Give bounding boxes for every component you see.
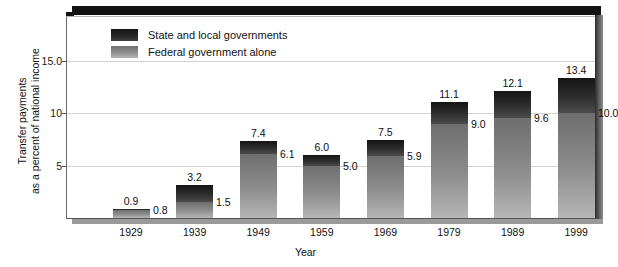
bar-segment-federal-1989 <box>494 118 531 218</box>
bar-federal-label-1939: 1.5 <box>216 196 231 208</box>
bar-federal-label-1999: 10.0 <box>598 107 618 119</box>
bar-total-label-1979: 11.1 <box>419 88 479 100</box>
bar-federal-label-1989: 9.6 <box>534 112 549 124</box>
bar-total-label-1969: 7.5 <box>355 126 415 138</box>
bar-segment-state-local-1949 <box>240 141 277 155</box>
bar-segment-federal-1959 <box>303 166 340 218</box>
x-axis-line <box>66 218 596 219</box>
bar-segment-state-local-1959 <box>303 155 340 165</box>
y-tick-mark-15 <box>62 61 67 62</box>
bar-1999 <box>558 78 595 218</box>
bar-federal-label-1969: 5.9 <box>407 150 422 162</box>
y-axis-title-line1: Transfer payments <box>16 19 29 224</box>
x-tick-label-1969: 1969 <box>355 226 415 238</box>
legend-label-federal: Federal government alone <box>148 45 276 60</box>
bar-segment-federal-1999 <box>558 113 595 218</box>
gridline-15 <box>67 61 595 62</box>
bar-segment-state-local-1999 <box>558 78 595 114</box>
legend-swatch-icon-federal <box>111 46 138 58</box>
x-tick-label-1929: 1929 <box>101 226 161 238</box>
bar-total-label-1989: 12.1 <box>483 77 543 89</box>
bar-segment-state-local-1979 <box>431 102 468 124</box>
bar-total-label-1949: 7.4 <box>228 127 288 139</box>
bar-1959 <box>303 155 340 218</box>
bar-federal-label-1979: 9.0 <box>471 118 486 130</box>
y-tick-mark-10 <box>62 113 67 114</box>
legend-label-state-local: State and local governments <box>148 28 287 43</box>
bar-segment-state-local-1969 <box>367 140 404 157</box>
bar-segment-federal-1929 <box>113 210 150 218</box>
x-tick-label-1959: 1959 <box>292 226 352 238</box>
plot-bottom-shadow <box>72 219 603 224</box>
y-tick-mark-5 <box>62 166 67 167</box>
legend-swatch-icon-state-local <box>111 29 138 41</box>
x-tick-label-1989: 1989 <box>483 226 543 238</box>
bar-segment-federal-1939 <box>176 202 213 218</box>
bar-total-label-1959: 6.0 <box>292 141 352 153</box>
bar-1929 <box>113 209 150 218</box>
chart-top-band <box>72 6 601 15</box>
bar-segment-federal-1969 <box>367 156 404 218</box>
x-tick-label-1939: 1939 <box>165 226 225 238</box>
bar-segment-federal-1979 <box>431 124 468 218</box>
x-tick-label-1979: 1979 <box>419 226 479 238</box>
bar-total-label-1999: 13.4 <box>546 64 606 76</box>
y-axis-title-line2: as a percent of national income <box>29 19 42 224</box>
x-axis-title: Year <box>0 246 611 258</box>
bar-segment-federal-1949 <box>240 154 277 218</box>
bar-1989 <box>494 91 531 218</box>
bar-segment-state-local-1939 <box>176 185 213 203</box>
bar-1949 <box>240 141 277 218</box>
bar-federal-label-1959: 5.0 <box>343 160 358 172</box>
bar-total-label-1929: 0.9 <box>101 195 161 207</box>
bar-1969 <box>367 140 404 219</box>
bar-total-label-1939: 3.2 <box>165 171 225 183</box>
bar-federal-label-1929: 0.8 <box>153 204 168 216</box>
bar-1939 <box>176 185 213 218</box>
x-tick-label-1999: 1999 <box>546 226 606 238</box>
bar-1979 <box>431 102 468 218</box>
y-axis-title: Transfer payments as a percent of nation… <box>16 19 42 224</box>
bar-segment-state-local-1989 <box>494 91 531 117</box>
x-tick-label-1949: 1949 <box>228 226 288 238</box>
